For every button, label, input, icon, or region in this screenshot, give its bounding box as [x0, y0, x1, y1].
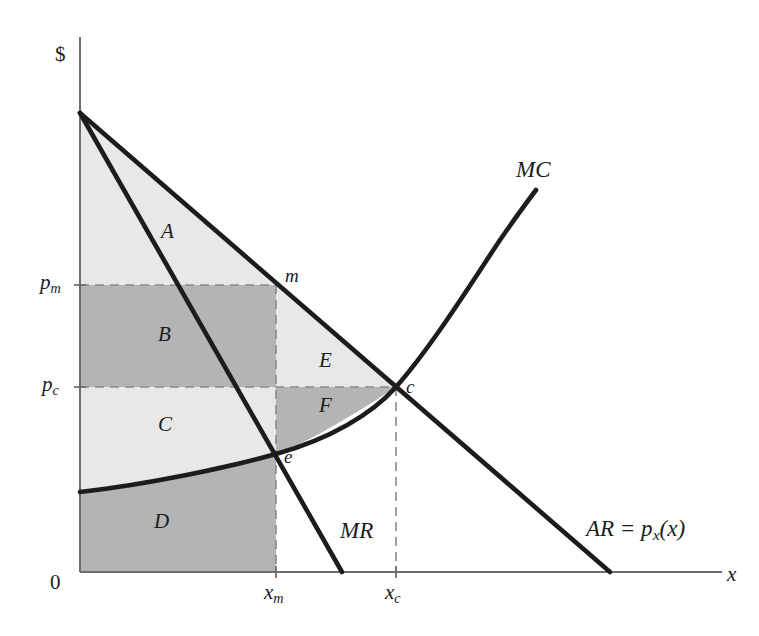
quantity-tick-xc-base: x	[385, 580, 394, 604]
curve-label-mc: MC	[516, 157, 551, 183]
curve-label-mr: MR	[340, 518, 373, 544]
curve-label-ar-sub: x	[653, 526, 660, 543]
origin-label: 0	[50, 570, 61, 595]
quantity-tick-label-xm: xm	[264, 580, 284, 607]
quantity-tick-xc-sub: c	[394, 590, 400, 606]
point-label-m: m	[285, 265, 299, 287]
x-axis-label: x	[727, 562, 736, 587]
quantity-tick-label-xc: xc	[385, 580, 401, 607]
curve-label-ar-tail: (x)	[660, 516, 686, 541]
region-label-E: E	[319, 348, 332, 373]
price-tick-pc-sub: c	[53, 382, 59, 398]
price-tick-pc-base: p	[42, 372, 53, 396]
quantity-tick-xm-sub: m	[273, 590, 283, 606]
region-label-A: A	[161, 219, 174, 244]
price-tick-pm-sub: m	[51, 280, 61, 296]
y-axis-label: $	[55, 42, 66, 67]
shaded-regions	[80, 113, 396, 572]
region-B-fill	[80, 285, 276, 387]
monopoly-welfare-figure: $ x 0 pm pc xm xc A B C D E F m c e MC M…	[0, 0, 759, 636]
price-tick-pm-base: p	[40, 270, 51, 294]
region-F-fill	[276, 387, 396, 455]
quantity-tick-xm-base: x	[264, 580, 273, 604]
region-label-C: C	[158, 412, 172, 437]
region-label-D: D	[154, 509, 169, 534]
price-tick-label-pc: pc	[42, 372, 59, 399]
price-tick-label-pm: pm	[40, 270, 61, 297]
point-label-e: e	[284, 446, 292, 468]
region-label-F: F	[319, 393, 332, 418]
point-label-c: c	[406, 376, 414, 398]
curve-label-ar-base: AR = p	[586, 516, 653, 541]
region-label-B: B	[158, 322, 171, 347]
curve-label-ar: AR = px(x)	[586, 516, 685, 544]
